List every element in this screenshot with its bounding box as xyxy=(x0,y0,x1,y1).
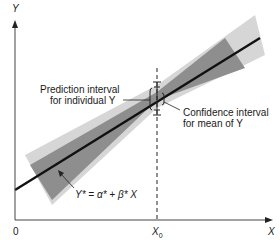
prediction-interval-label-line2: for individual Y xyxy=(50,95,115,106)
x-axis-label: X xyxy=(268,226,275,237)
x0-label-subscript: 0 xyxy=(159,232,163,239)
origin-label: 0 xyxy=(13,226,19,237)
y-axis-label: Y xyxy=(12,3,19,14)
regression-equation-label: Y* = α* + β* X xyxy=(75,189,137,200)
prediction-interval-label-line1: Prediction interval xyxy=(40,84,119,95)
confidence-leader-line xyxy=(164,102,180,110)
confidence-interval-label-line1: Confidence interval xyxy=(183,107,269,118)
x0-label-main: X xyxy=(152,226,159,237)
x-axis-arrow-icon xyxy=(265,217,273,223)
y-axis-arrow-icon xyxy=(12,20,18,28)
x0-label: X0 xyxy=(152,226,163,240)
confidence-interval-label-line2: for mean of Y xyxy=(183,118,243,129)
